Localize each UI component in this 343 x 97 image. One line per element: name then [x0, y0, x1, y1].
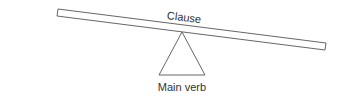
fulcrum-label: Main verb [158, 81, 206, 93]
plank-label: Clause [166, 9, 201, 25]
seesaw-diagram: Clause Main verb [0, 0, 343, 97]
fulcrum-triangle [159, 32, 205, 75]
